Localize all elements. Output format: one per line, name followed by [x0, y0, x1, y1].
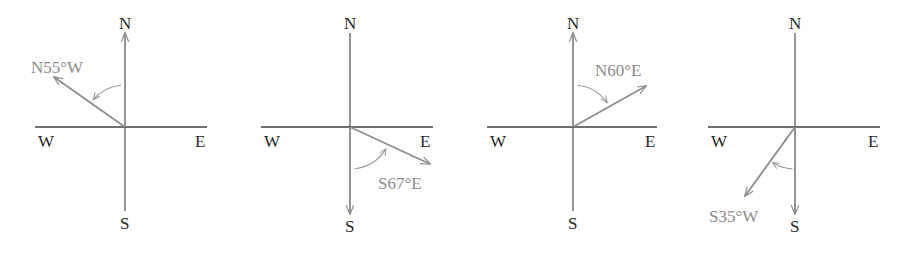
bearing-ray [54, 77, 125, 127]
east-label: E [868, 132, 878, 151]
west-label: W [264, 132, 281, 151]
south-label: S [345, 217, 354, 236]
bearing-ray [573, 86, 646, 127]
angle-arc [355, 149, 386, 169]
south-label: S [790, 217, 799, 236]
east-label: E [195, 132, 205, 151]
bearing-label: S35°W [709, 207, 759, 226]
north-label: N [567, 14, 579, 33]
angle-arc [773, 162, 793, 168]
south-label: S [568, 214, 577, 233]
north-label: N [789, 14, 801, 33]
north-label: N [119, 14, 131, 33]
bearing-label: N55°W [31, 58, 84, 77]
bearing-label: N60°E [595, 61, 641, 80]
bearing-ray [350, 127, 430, 164]
south-label: S [120, 214, 129, 233]
east-label: E [420, 132, 430, 151]
diagram-4: NSWES35°W [708, 14, 880, 236]
diagram-2: NSWES67°E [261, 14, 433, 236]
west-label: W [711, 132, 728, 151]
diagram-3: NSWEN60°E [487, 14, 657, 233]
west-label: W [38, 132, 55, 151]
west-label: W [490, 132, 507, 151]
figure-canvas: NSWEN55°WNSWES67°ENSWEN60°ENSWES35°W [0, 0, 918, 258]
compass-bearing-figure: NSWEN55°WNSWES67°ENSWEN60°ENSWES35°W [0, 0, 918, 258]
diagram-group: NSWEN55°WNSWES67°ENSWEN60°ENSWES35°W [31, 14, 880, 236]
bearing-ray [745, 127, 795, 196]
diagram-1: NSWEN55°W [31, 14, 207, 233]
angle-arc [93, 85, 121, 99]
north-label: N [344, 14, 356, 33]
bearing-label: S67°E [378, 174, 422, 193]
east-label: E [645, 132, 655, 151]
angle-arc [577, 85, 607, 102]
